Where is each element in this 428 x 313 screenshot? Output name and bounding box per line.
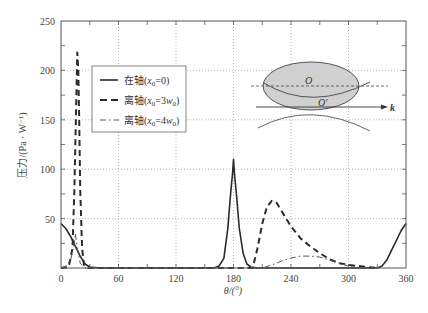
x-tick-label: 60 <box>114 273 124 284</box>
y-tick-labels: 50100150200250 <box>40 16 55 225</box>
y-tick-label: 150 <box>40 115 55 126</box>
x-axis-label: θ/(°) <box>224 285 243 297</box>
x-tick-label: 360 <box>399 273 414 284</box>
arrow-head-icon <box>381 105 388 110</box>
legend-label-off-axis-3w0: 离轴(x0=3w0) <box>124 94 179 108</box>
grid-lines <box>61 21 406 268</box>
legend: 在轴(x0=0) 离轴(x0=3w0) 离轴(x0=4w0) <box>92 66 186 132</box>
series-line-2 <box>61 233 358 268</box>
inset-ellipse-diagram: O O' k <box>251 62 395 131</box>
figure-caption-cutoff <box>14 303 414 313</box>
x-tick-label: 180 <box>226 273 241 284</box>
lower-arc <box>258 115 370 131</box>
y-axis-label: 压力/(Pa · W⁻¹) <box>16 112 29 177</box>
x-tick-label: 300 <box>341 273 356 284</box>
pressure-angle-chart: 060120180240300360 50100150200250 θ/(°) … <box>0 0 428 313</box>
y-tick-label: 250 <box>40 16 55 27</box>
legend-label-off-axis-4w0: 离轴(x0=4w0) <box>124 114 179 128</box>
y-tick-label: 50 <box>45 214 55 225</box>
x-tick-label: 240 <box>284 273 299 284</box>
label-O: O <box>305 75 312 86</box>
x-tick-label: 120 <box>169 273 184 284</box>
y-tick-label: 200 <box>40 65 55 76</box>
legend-label-on-axis: 在轴(x0=0) <box>124 74 169 88</box>
label-k: k <box>390 102 395 113</box>
x-tick-label: 0 <box>59 273 64 284</box>
label-O-prime: O' <box>318 97 328 108</box>
x-tick-labels: 060120180240300360 <box>59 273 414 284</box>
y-tick-label: 100 <box>40 164 55 175</box>
